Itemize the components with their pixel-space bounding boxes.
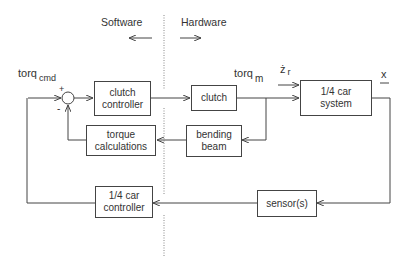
torq-cmd-label: torqcmd xyxy=(18,67,56,79)
plus-sign: + xyxy=(59,84,64,94)
clutch-controller-block: clutchcontroller xyxy=(94,81,151,116)
z-r-dot-label: żr xyxy=(280,63,291,75)
software-label: Software xyxy=(101,16,142,28)
sensors-block: sensor(s) xyxy=(257,190,317,217)
hardware-label: Hardware xyxy=(181,16,227,28)
torque-calculations-block: torquecalculations xyxy=(86,125,156,156)
minus-sign: - xyxy=(57,103,60,114)
bending-beam-block: bendingbeam xyxy=(186,125,242,157)
torq-m-label: torqm xyxy=(234,67,263,79)
car-system-block: 1/4 carsystem xyxy=(300,80,372,116)
clutch-block: clutch xyxy=(191,85,237,111)
car-controller-block: 1/4 carcontroller xyxy=(95,186,153,218)
x-output-label: x xyxy=(381,68,387,80)
